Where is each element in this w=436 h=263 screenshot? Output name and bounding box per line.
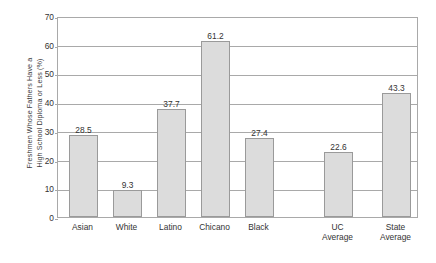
- bar-value-label: 28.5: [58, 126, 109, 134]
- y-axis-tick-mark: [55, 47, 58, 48]
- x-axis-category-label: StateAverage: [366, 222, 426, 242]
- x-axis-category-label-line: UC: [308, 222, 368, 232]
- gridline: [58, 46, 417, 47]
- x-axis-category-label: UCAverage: [308, 222, 368, 242]
- x-axis-category-label: Black: [229, 222, 289, 232]
- y-axis-tick-label: 60: [14, 42, 54, 50]
- gridline: [58, 190, 417, 191]
- bar: 37.7: [157, 109, 186, 217]
- y-axis-tick-label: 0: [14, 214, 54, 222]
- bar-value-label: 43.3: [371, 84, 422, 92]
- gridline: [58, 75, 417, 76]
- bar: 9.3: [113, 190, 142, 217]
- y-axis-tick-mark: [55, 219, 58, 220]
- y-axis-tick-mark: [55, 190, 58, 191]
- bar-value-label: 61.2: [190, 32, 241, 40]
- y-axis-tick-mark: [55, 75, 58, 76]
- y-axis-tick-mark: [55, 18, 58, 19]
- plot-area: 01020304050607028.59.337.761.227.422.643…: [57, 17, 418, 218]
- x-axis-category-label-line: Average: [308, 232, 368, 242]
- bar-value-label: 9.3: [102, 181, 153, 189]
- bar: 43.3: [382, 93, 411, 217]
- bar: 22.6: [324, 152, 353, 217]
- y-axis-tick-label: 10: [14, 185, 54, 193]
- bar-value-label: 22.6: [313, 143, 364, 151]
- bar: 28.5: [69, 135, 98, 217]
- y-axis-tick-label: 30: [14, 128, 54, 136]
- bar-value-label: 27.4: [234, 129, 285, 137]
- y-axis-tick-label: 50: [14, 70, 54, 78]
- bar-value-label: 37.7: [146, 100, 197, 108]
- gridline: [58, 104, 417, 105]
- y-axis-tick-label: 20: [14, 157, 54, 165]
- y-axis-tick-label: 40: [14, 99, 54, 107]
- x-axis-category-label-line: Black: [229, 222, 289, 232]
- x-axis-category-label-line: Average: [366, 232, 426, 242]
- x-axis-category-label-line: State: [366, 222, 426, 232]
- bar-chart: Freshmen Whose Fathers Have a High Schoo…: [0, 0, 436, 263]
- bar: 61.2: [201, 41, 230, 217]
- y-axis-tick-mark: [55, 162, 58, 163]
- gridline: [58, 161, 417, 162]
- bar: 27.4: [245, 138, 274, 217]
- y-axis-tick-label: 70: [14, 13, 54, 21]
- y-axis-tick-mark: [55, 104, 58, 105]
